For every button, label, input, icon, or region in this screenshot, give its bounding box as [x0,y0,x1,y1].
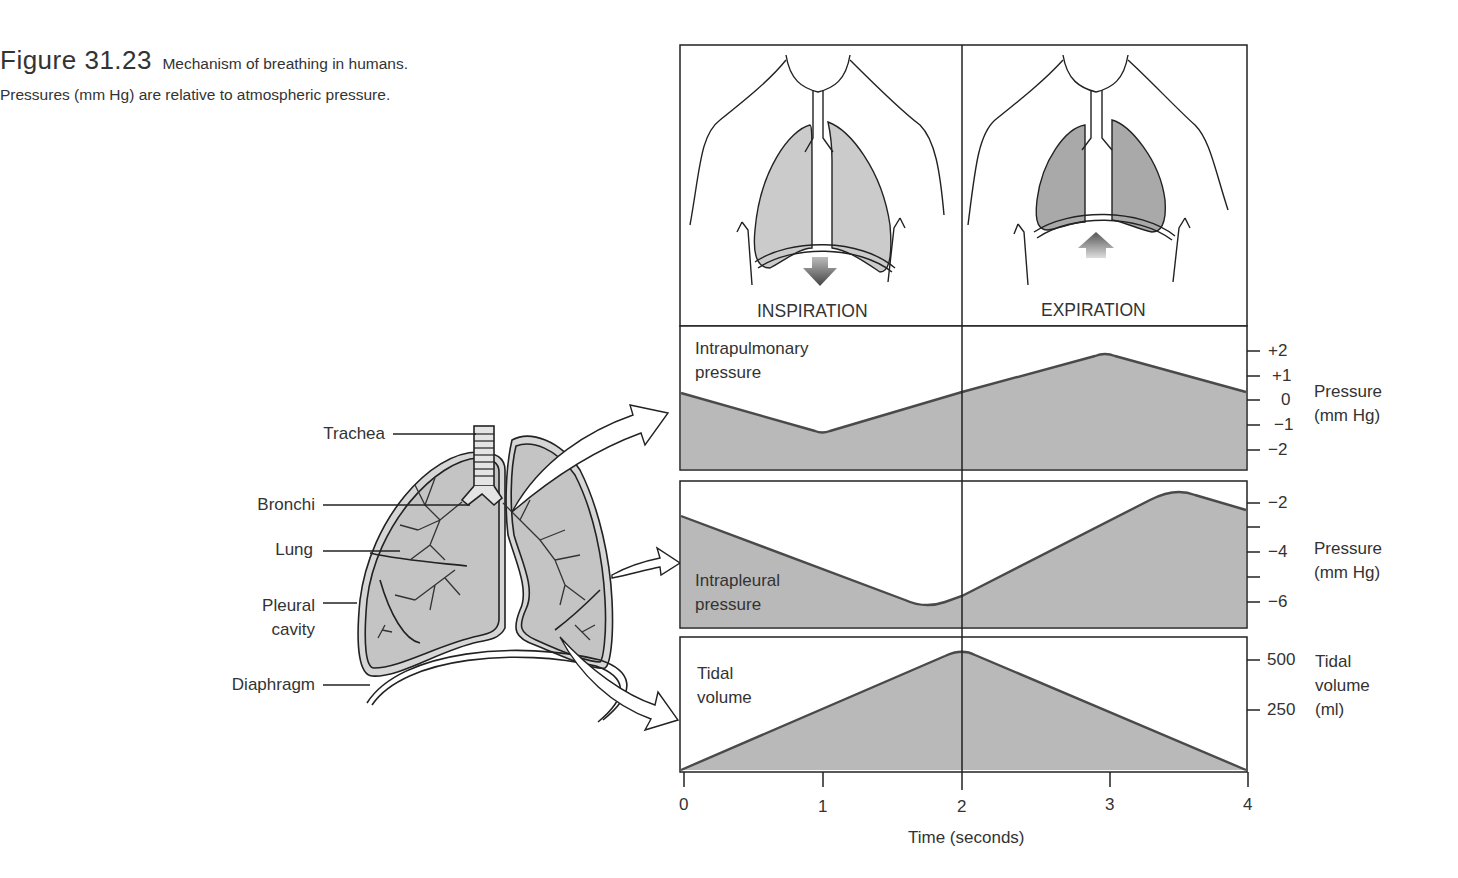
breathing-diagram [0,0,1458,878]
tidal-volume-title: Tidal volume [697,662,752,710]
y-tick-label: −6 [1268,592,1287,612]
y-tick-label: −1 [1274,415,1293,435]
bronchi-label: Bronchi [180,495,315,515]
x-tick-label: 4 [1243,795,1252,815]
x-axis-ticks [684,772,1248,790]
inspiration-label: INSPIRATION [757,301,868,322]
y-tick-label: −2 [1268,493,1287,513]
intrapleural-axis-title: Pressure (mm Hg) [1314,537,1382,585]
x-tick-label: 1 [818,797,827,817]
y-tick-label: +2 [1268,341,1287,361]
expiration-label: EXPIRATION [1041,300,1146,321]
intrapleural-title: Intrapleural pressure [695,569,780,617]
trachea-label: Trachea [250,424,385,444]
intrapulmonary-axis-title: Pressure (mm Hg) [1314,380,1382,428]
tidal-volume-panel [680,637,1260,772]
y-tick-label: +1 [1272,366,1291,386]
x-tick-label: 2 [957,797,966,817]
lung-anatomy-illustration [358,426,627,722]
diaphragm-label: Diaphragm [180,675,315,695]
y-tick-label: 0 [1281,390,1290,410]
x-tick-label: 0 [679,795,688,815]
x-tick-label: 3 [1105,795,1114,815]
y-tick-label: 500 [1267,650,1295,670]
y-tick-label: −4 [1268,542,1287,562]
y-tick-label: 250 [1267,700,1295,720]
x-axis-title: Time (seconds) [908,826,1025,850]
intrapulmonary-title: Intrapulmonary pressure [695,337,808,385]
pleural-cavity-label: Pleural cavity [180,594,315,642]
y-tick-label: −2 [1268,440,1287,460]
arrow-to-intrapleural [612,548,680,578]
lung-label: Lung [180,540,313,560]
tidal-volume-axis-title: Tidal volume (ml) [1315,650,1370,722]
